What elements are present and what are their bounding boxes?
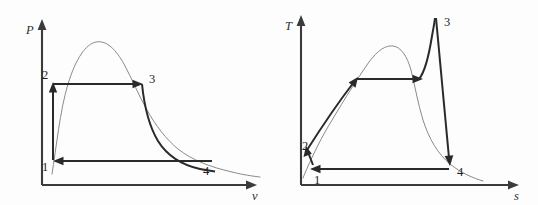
- pv-y-axis-label: P: [25, 23, 34, 37]
- ts-arrow-4-1: [310, 165, 321, 173]
- pv-process-3-4: [142, 84, 215, 172]
- ts-process-superheat: [419, 18, 435, 79]
- figure-container: P v 1 2 3 4: [0, 0, 538, 205]
- pv-state-label-2: 2: [42, 68, 48, 82]
- pv-x-axis-label: v: [252, 189, 258, 203]
- ts-process-3-4: [436, 18, 449, 158]
- ts-diagram-canvas: T s 1 2 3 4: [269, 0, 538, 205]
- ts-y-axis-arrowhead: [297, 15, 306, 26]
- ts-state-label-2: 2: [302, 139, 308, 153]
- pressure-volume-diagram: P v 1 2 3 4: [0, 0, 269, 205]
- pv-saturation-dome: [52, 42, 260, 177]
- pv-state-label-1: 1: [42, 160, 48, 174]
- ts-state-label-1: 1: [314, 173, 320, 187]
- pv-state-label-4: 4: [203, 164, 210, 178]
- pv-state-label-3: 3: [149, 72, 155, 86]
- ts-state-label-3: 3: [444, 15, 450, 29]
- ts-process-2-liquid: [307, 82, 354, 150]
- ts-x-axis-label: s: [514, 189, 519, 203]
- pv-y-axis-arrowhead: [38, 19, 47, 30]
- ts-state-label-4: 4: [457, 165, 464, 179]
- temperature-entropy-diagram: T s 1 2 3 4: [269, 0, 538, 205]
- ts-y-axis-label: T: [285, 19, 293, 33]
- pv-diagram-canvas: P v 1 2 3 4: [0, 0, 269, 205]
